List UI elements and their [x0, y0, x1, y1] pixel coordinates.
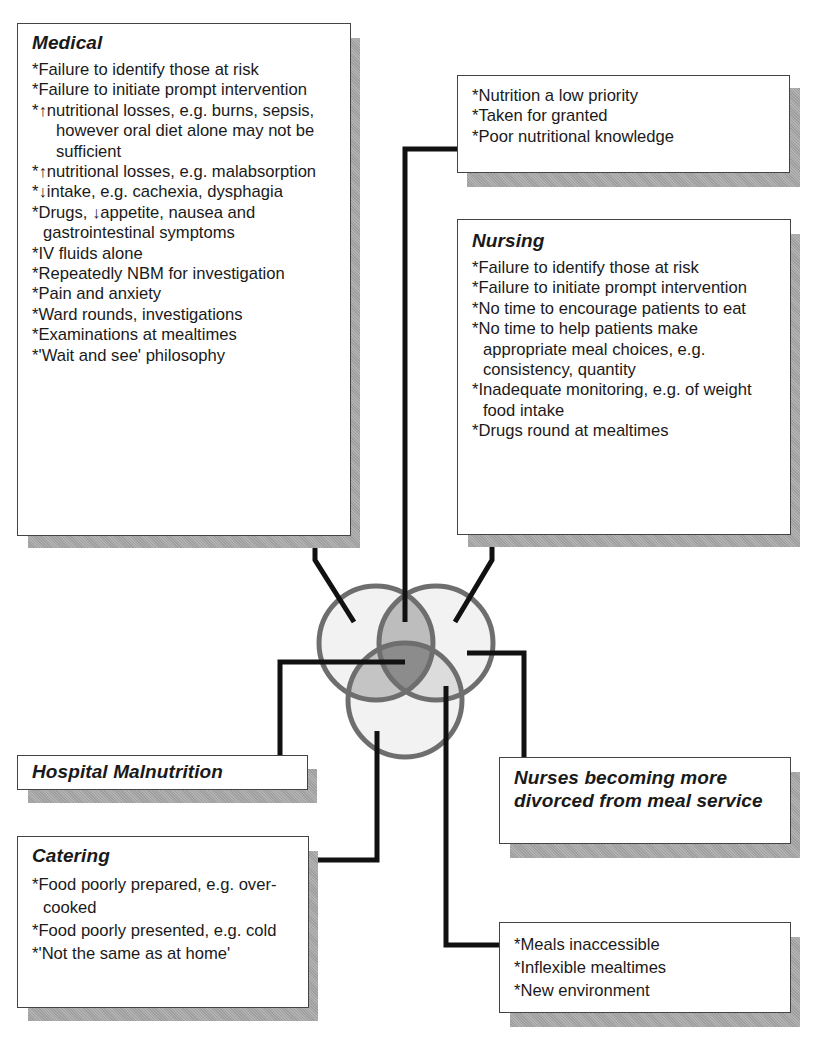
catering-box: Catering *Food poorly prepared, e.g. ove… [17, 836, 309, 1008]
list-item: *New environment [514, 979, 778, 1002]
list-item: *IV fluids alone [32, 244, 338, 264]
catering-list: *Food poorly prepared, e.g. over-cooked … [32, 873, 296, 965]
list-item: *↑nutritional losses, e.g. malabsorption [32, 162, 338, 182]
list-item: *Drugs round at mealtimes [472, 421, 778, 441]
list-item: *Failure to initiate prompt intervention [32, 80, 338, 100]
hospital-malnutrition-box: Hospital Malnutrition [17, 755, 308, 790]
list-item: *Inadequate monitoring, e.g. of weight f… [472, 380, 778, 421]
nurses-divorced-box: Nurses becoming more divorced from meal … [499, 757, 791, 844]
list-item: *Examinations at mealtimes [32, 325, 338, 345]
list-item: *↓intake, e.g. cachexia, dysphagia [32, 182, 338, 202]
list-item: *Nutrition a low priority [472, 86, 777, 106]
environment-box: *Meals inaccessible *Inflexible mealtime… [499, 922, 791, 1013]
list-item: *Failure to identify those at risk [32, 60, 338, 80]
medical-title: Medical [32, 32, 338, 54]
list-item: *Meals inaccessible [514, 933, 778, 956]
connector-catering [308, 731, 377, 860]
nursing-title: Nursing [472, 230, 778, 252]
list-item: *Taken for granted [472, 106, 777, 126]
list-item: *Poor nutritional knowledge [472, 127, 777, 147]
nurses-divorced-title: Nurses becoming more divorced from meal … [514, 766, 778, 812]
medical-box: Medical *Failure to identify those at ri… [17, 23, 351, 536]
list-item: *Food poorly prepared, e.g. over-cooked [32, 873, 296, 919]
list-item: *Pain and anxiety [32, 284, 338, 304]
list-item: *Repeatedly NBM for investigation [32, 264, 338, 284]
list-item: *Drugs, ↓appetite, nausea and gastrointe… [32, 203, 338, 244]
list-item: *No time to help patients make appropria… [472, 319, 778, 380]
list-item: *'Not the same as at home' [32, 942, 296, 965]
priority-box: *Nutrition a low priority *Taken for gra… [457, 75, 790, 173]
priority-list: *Nutrition a low priority *Taken for gra… [472, 86, 777, 147]
medical-list: *Failure to identify those at risk *Fail… [32, 60, 338, 366]
list-item: *Inflexible mealtimes [514, 956, 778, 979]
nursing-list: *Failure to identify those at risk *Fail… [472, 258, 778, 442]
list-item: *Ward rounds, investigations [32, 305, 338, 325]
list-item: *Failure to identify those at risk [472, 258, 778, 278]
list-item: *No time to encourage patients to eat [472, 299, 778, 319]
list-item: *Food poorly presented, e.g. cold [32, 919, 296, 942]
connector-priority [405, 149, 457, 622]
list-item: *↑nutritional losses, e.g. burns, sepsis… [32, 101, 338, 162]
catering-title: Catering [32, 845, 296, 867]
nursing-box: Nursing *Failure to identify those at ri… [457, 219, 791, 535]
environment-list: *Meals inaccessible *Inflexible mealtime… [514, 933, 778, 1002]
hospital-malnutrition-title: Hospital Malnutrition [32, 761, 295, 783]
list-item: *Failure to initiate prompt intervention [472, 278, 778, 298]
list-item: *'Wait and see' philosophy [32, 346, 338, 366]
